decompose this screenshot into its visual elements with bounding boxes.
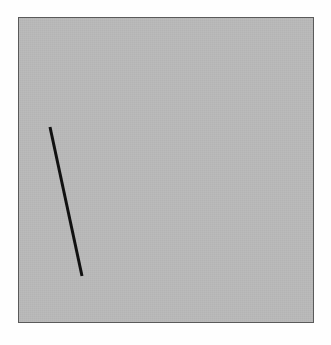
figure-root: [0, 0, 331, 345]
line-segment[interactable]: [50, 127, 82, 276]
stroke-layer: [0, 0, 331, 345]
